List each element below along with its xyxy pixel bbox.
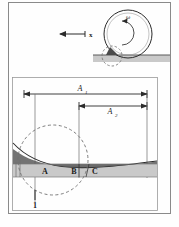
zone-label-b: B <box>71 167 77 176</box>
rolling-wheel-panel: ω x <box>59 10 170 66</box>
a2-label: A <box>107 107 113 116</box>
dimension-a1: A 1 <box>23 84 148 98</box>
diagram-canvas: ω x A 1 A 2 <box>0 0 179 227</box>
a1-label-subscript: 1 <box>85 90 88 95</box>
zone-label-a: A <box>42 167 48 176</box>
omega-rotation-arc <box>122 21 134 45</box>
x-direction-arrow-head <box>59 31 66 37</box>
a1-label: A <box>77 84 83 93</box>
a2-label-subscript: 2 <box>115 113 118 118</box>
callout-label-1: 1 <box>33 201 37 210</box>
top-substrate-band <box>93 55 170 62</box>
x-direction-label: x <box>89 31 93 39</box>
figure-root: ω x A 1 A 2 <box>0 0 179 227</box>
contact-zoom-panel: A 1 A 2 A <box>13 84 157 210</box>
dimension-a2: A 2 <box>78 102 148 118</box>
bottom-panel-frame <box>13 78 158 211</box>
zone-label-c: C <box>92 167 98 176</box>
top-contact-wedge <box>106 47 118 55</box>
omega-label: ω <box>126 14 130 20</box>
